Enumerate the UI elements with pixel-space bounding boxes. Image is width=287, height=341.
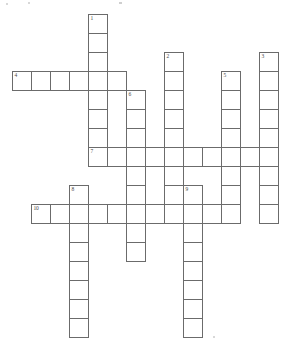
grid-cell[interactable] <box>88 90 108 110</box>
grid-cell[interactable] <box>126 204 146 224</box>
grid-cell[interactable] <box>88 71 108 91</box>
grid-cell[interactable] <box>88 204 108 224</box>
grid-cell[interactable]: 4 <box>12 71 32 91</box>
grid-cell[interactable] <box>221 90 241 110</box>
clue-number: 8 <box>72 186 75 193</box>
grid-cell[interactable] <box>202 204 222 224</box>
grid-cell[interactable] <box>164 147 184 167</box>
grid-cell[interactable] <box>164 185 184 205</box>
grid-cell[interactable] <box>107 147 127 167</box>
grid-cell[interactable] <box>126 128 146 148</box>
grid-cell[interactable]: 7 <box>88 147 108 167</box>
grid-cell[interactable] <box>259 147 279 167</box>
grid-cell[interactable] <box>164 128 184 148</box>
grid-cell[interactable] <box>69 318 89 338</box>
grid-cell[interactable] <box>221 147 241 167</box>
clue-number: 7 <box>91 148 94 155</box>
grid-cell[interactable] <box>50 71 70 91</box>
grid-cell[interactable] <box>183 147 203 167</box>
clue-number: 5 <box>224 72 227 79</box>
grid-cell[interactable] <box>183 280 203 300</box>
grid-cell[interactable] <box>69 71 89 91</box>
grid-cell[interactable] <box>31 71 51 91</box>
grid-cell[interactable] <box>69 242 89 262</box>
grid-cell[interactable] <box>259 90 279 110</box>
grid-cell[interactable]: 2 <box>164 52 184 72</box>
crossword-puzzle: 12345678910 <box>0 0 287 341</box>
grid-cell[interactable] <box>88 109 108 129</box>
grid-cell[interactable]: 1 <box>88 14 108 34</box>
grid-cell[interactable] <box>259 204 279 224</box>
grid-cell[interactable] <box>126 166 146 186</box>
grid-cell[interactable] <box>221 109 241 129</box>
grid-cell[interactable] <box>259 166 279 186</box>
grid-cell[interactable] <box>88 52 108 72</box>
grid-cell[interactable] <box>164 90 184 110</box>
grid-cell[interactable] <box>259 128 279 148</box>
grid-cell[interactable] <box>107 204 127 224</box>
grid-cell[interactable] <box>69 280 89 300</box>
grid-cell[interactable] <box>221 204 241 224</box>
grid-cell[interactable] <box>88 128 108 148</box>
clue-number: 9 <box>186 186 189 193</box>
grid-cell[interactable] <box>259 71 279 91</box>
grid-cell[interactable] <box>69 261 89 281</box>
grid-cell[interactable] <box>183 261 203 281</box>
grid-cell[interactable] <box>259 185 279 205</box>
grid-cell[interactable] <box>126 242 146 262</box>
grid-cell[interactable] <box>221 185 241 205</box>
grid-cell[interactable] <box>240 147 260 167</box>
grid-cell[interactable] <box>145 204 165 224</box>
crossword-grid[interactable]: 12345678910 <box>0 0 287 341</box>
grid-cell[interactable] <box>126 185 146 205</box>
grid-cell[interactable] <box>183 318 203 338</box>
grid-cell[interactable] <box>164 204 184 224</box>
grid-cell[interactable] <box>126 223 146 243</box>
grid-cell[interactable] <box>126 147 146 167</box>
grid-cell[interactable]: 6 <box>126 90 146 110</box>
grid-cell[interactable] <box>221 128 241 148</box>
clue-number: 4 <box>15 72 18 79</box>
clue-number: 10 <box>34 205 39 212</box>
clue-number: 1 <box>91 15 94 22</box>
grid-cell[interactable] <box>183 204 203 224</box>
grid-cell[interactable] <box>221 166 241 186</box>
clue-number: 2 <box>167 53 170 60</box>
grid-cell[interactable] <box>145 147 165 167</box>
grid-cell[interactable] <box>69 223 89 243</box>
grid-cell[interactable] <box>50 204 70 224</box>
grid-cell[interactable]: 3 <box>259 52 279 72</box>
grid-cell[interactable]: 9 <box>183 185 203 205</box>
grid-cell[interactable]: 5 <box>221 71 241 91</box>
grid-cell[interactable] <box>88 33 108 53</box>
grid-cell[interactable] <box>183 223 203 243</box>
grid-cell[interactable] <box>183 299 203 319</box>
grid-cell[interactable] <box>164 166 184 186</box>
grid-cell[interactable] <box>164 71 184 91</box>
grid-cell[interactable] <box>107 71 127 91</box>
grid-cell[interactable] <box>164 109 184 129</box>
grid-cell[interactable] <box>259 109 279 129</box>
grid-cell[interactable] <box>202 147 222 167</box>
grid-cell[interactable] <box>69 204 89 224</box>
grid-cell[interactable]: 8 <box>69 185 89 205</box>
clue-number: 6 <box>129 91 132 98</box>
grid-cell[interactable]: 10 <box>31 204 51 224</box>
grid-cell[interactable] <box>183 242 203 262</box>
grid-cell[interactable] <box>69 299 89 319</box>
grid-cell[interactable] <box>126 109 146 129</box>
clue-number: 3 <box>262 53 265 60</box>
